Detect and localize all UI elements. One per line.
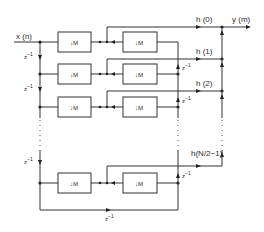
arrow-up-icon <box>176 64 180 69</box>
arrow-up-icon <box>176 173 180 178</box>
decimator-label: ↓M <box>70 40 78 46</box>
tap-label-h1: h (1) <box>196 47 213 56</box>
delay-label-left-1: z−1 <box>24 51 33 60</box>
delay-label-right-2: z−1 <box>182 95 191 104</box>
decimator-label: ↓M <box>135 40 143 46</box>
tap-label-hN2m1: h(N/2−1) <box>191 149 223 158</box>
arrow-up-icon <box>220 62 224 67</box>
input-label: x (n) <box>16 32 32 41</box>
delay-label-right-1: z−1 <box>182 62 191 71</box>
decimator-label: ↓M <box>135 72 143 78</box>
arrow-up-icon <box>176 97 180 102</box>
decimator-label: ↓M <box>70 181 78 187</box>
tap-label-h2: h (2) <box>196 79 213 88</box>
delay-label-left-2: z−1 <box>24 83 33 92</box>
tap-label-h0: h (0) <box>196 15 213 24</box>
row-3: ↓M ↓M h(N/2−1) <box>38 149 222 193</box>
arrow-down-icon <box>38 160 42 165</box>
row-0: ↓M ↓M h (0) y (m) <box>38 15 251 52</box>
decimator-label: ↓M <box>135 105 143 111</box>
row-2: ↓M ↓M h (2) <box>38 79 223 117</box>
decimator-label: ↓M <box>70 72 78 78</box>
arrow-down-icon <box>38 55 42 60</box>
arrow-right-icon <box>106 208 111 212</box>
polyphase-filter-diagram: x (n) z−1 z−1 z−1 ↓M ↓M h (0) y (m) ↓M <box>0 0 264 232</box>
delay-label-right-3: z−1 <box>182 170 191 179</box>
arrow-up-icon <box>220 94 224 99</box>
decimator-label: ↓M <box>70 105 78 111</box>
arrow-down-icon <box>38 87 42 92</box>
delay-label-left-3: z−1 <box>24 156 33 165</box>
output-label: y (m) <box>232 15 251 24</box>
arrow-up-icon <box>220 30 224 35</box>
delay-label-bottom: z−1 <box>105 213 114 222</box>
decimator-label: ↓M <box>135 181 143 187</box>
